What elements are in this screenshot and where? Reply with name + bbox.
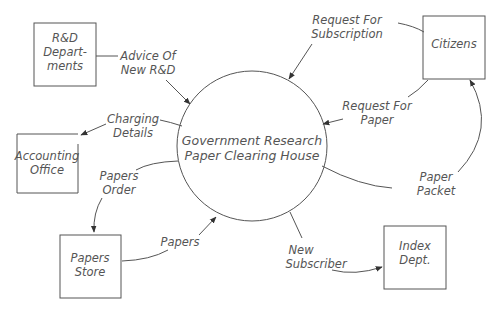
entity-label: Citizens [431, 37, 476, 51]
entity-papers-store[interactable]: Papers Store [60, 235, 121, 298]
flow-label: Request For [312, 13, 383, 27]
entity-label: Index [399, 239, 431, 253]
entity-label: Depart- [43, 45, 87, 59]
flow-paper-packet[interactable]: Paper Packet [322, 80, 482, 198]
entity-label: R&D [52, 31, 78, 45]
flow-label: Subscription [311, 27, 382, 41]
flow-label: Paper [360, 113, 394, 127]
flow-label: New [288, 243, 314, 257]
entity-label: Store [75, 265, 106, 279]
flow-label: New R&D [121, 63, 176, 77]
flow-advice-of-new-rnd[interactable]: Advice Of New R&D [96, 49, 190, 104]
flow-label: Paper [419, 170, 453, 184]
flow-label: Subscriber [285, 257, 348, 271]
entity-accounting-office[interactable]: Accounting Office [14, 134, 79, 193]
flow-label: Packet [417, 184, 456, 198]
entity-index-dept[interactable]: Index Dept. [384, 226, 446, 289]
entity-label: ments [47, 59, 83, 73]
flow-label: Charging [107, 112, 159, 126]
process-label-line2: Paper Clearing House [184, 148, 319, 163]
entity-citizens[interactable]: Citizens [423, 16, 485, 79]
flow-label: Details [113, 126, 153, 140]
flow-label: Advice Of [119, 49, 177, 63]
entity-label: Papers [70, 251, 109, 265]
flow-papers[interactable]: Papers [122, 217, 216, 261]
process-clearing-house[interactable]: Government Research Paper Clearing House [177, 71, 327, 221]
process-label-line1: Government Research [182, 133, 322, 148]
entity-label: Accounting [14, 149, 79, 163]
flow-new-subscriber[interactable]: New Subscriber [285, 212, 382, 272]
flow-charging-details[interactable]: Charging Details [81, 112, 182, 140]
flow-request-for-paper[interactable]: Request For Paper [323, 80, 428, 127]
entity-rnd-departments[interactable]: R&D Depart- ments [34, 23, 96, 86]
flow-label: Papers [160, 235, 199, 249]
entity-label: Dept. [399, 253, 430, 267]
flow-label: Request For [342, 99, 413, 113]
flow-label: Papers [99, 169, 138, 183]
flow-request-for-subscription[interactable]: Request For Subscription [289, 13, 424, 79]
entity-label: Office [30, 163, 64, 177]
flow-label: Order [103, 183, 137, 197]
data-flow-diagram: Government Research Paper Clearing House… [0, 0, 500, 312]
flow-papers-order[interactable]: Papers Order [94, 161, 178, 232]
